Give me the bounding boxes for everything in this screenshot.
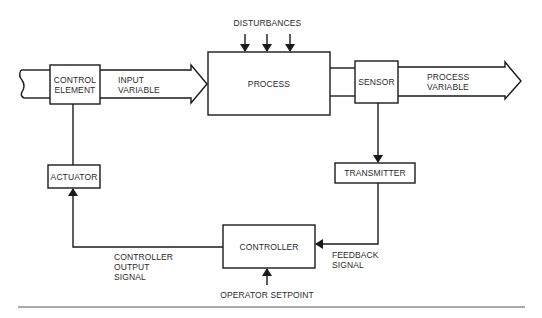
input-variable-label: INPUT VARIABLE bbox=[118, 75, 160, 95]
incoming-pipe bbox=[20, 70, 50, 98]
feedback-signal-label: FEEDBACK SIGNAL bbox=[332, 250, 379, 270]
control-loop-diagram bbox=[0, 0, 542, 318]
operator-setpoint-label: OPERATOR SETPOINT bbox=[217, 290, 317, 300]
controller-output-signal-label: CONTROLLER OUTPUT SIGNAL bbox=[114, 252, 173, 282]
transmitter-label: TRANSMITTER bbox=[335, 168, 415, 178]
sensor-label: SENSOR bbox=[355, 77, 398, 87]
process-variable-label: PROCESS VARIABLE bbox=[427, 72, 469, 92]
controller-output-line bbox=[73, 189, 223, 247]
actuator-label: ACTUATOR bbox=[48, 172, 100, 182]
process-label: PROCESS bbox=[208, 79, 330, 89]
feedback-signal-line bbox=[316, 183, 378, 244]
control-element-label: CONTROL ELEMENT bbox=[50, 75, 100, 95]
controller-label: CONTROLLER bbox=[223, 242, 315, 252]
disturbances-label: DISTURBANCES bbox=[220, 18, 315, 28]
